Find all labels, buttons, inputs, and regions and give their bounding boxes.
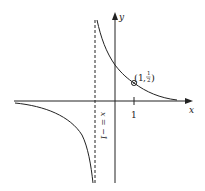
y-axis-label: y (118, 12, 125, 22)
y-axis-arrow-icon (112, 12, 118, 20)
curve-upper-branch (97, 20, 177, 100)
x-tick-label-1: 1 (131, 110, 137, 120)
point-label-y-numerator: 1 (147, 70, 151, 76)
point-label-comma: , (143, 73, 146, 83)
point-label: ( 1 , 1 2 ) (134, 70, 155, 83)
point-label-y-denominator: 2 (147, 77, 151, 83)
x-axis-label: x (189, 105, 194, 115)
graph-canvas: x y 1 x = −1 ( 1 , 1 2 ) (0, 0, 205, 191)
asymptote-label: x = −1 (99, 112, 108, 140)
x-axis-arrow-icon (185, 98, 193, 104)
point-label-close-paren: ) (151, 72, 155, 83)
curve-lower-branch (15, 103, 93, 183)
